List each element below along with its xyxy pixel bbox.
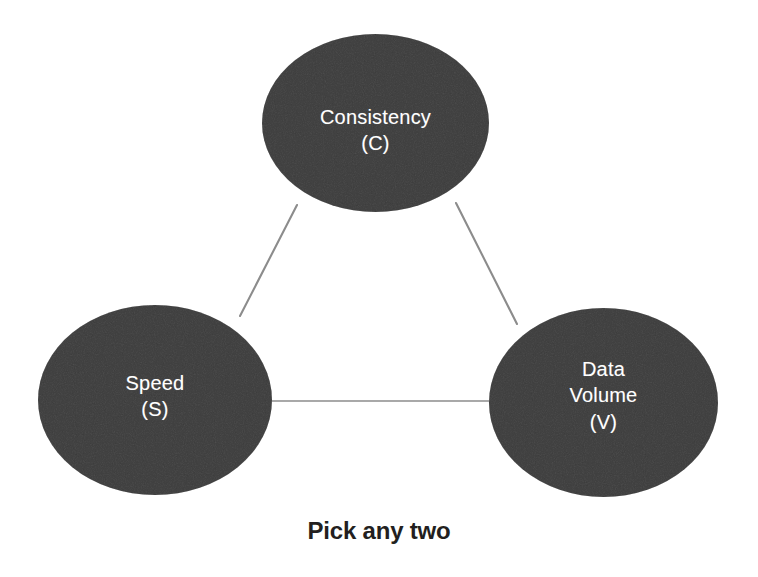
edge-group xyxy=(240,203,517,401)
node-speed-ellipse[interactable] xyxy=(38,305,272,495)
node-group xyxy=(38,34,718,497)
node-data-volume-ellipse[interactable] xyxy=(489,308,718,497)
edge-consistency-speed xyxy=(240,205,297,316)
edge-consistency-data-volume xyxy=(456,203,517,324)
diagram-caption: Pick any two xyxy=(0,517,758,545)
diagram-svg xyxy=(0,0,758,577)
diagram-canvas: Consistency (C) Speed (S) Data Volume (V… xyxy=(0,0,758,577)
node-consistency-ellipse[interactable] xyxy=(262,34,489,212)
